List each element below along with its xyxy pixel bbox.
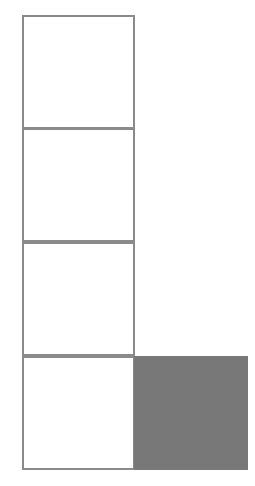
grid-cell-r4c2 [134,356,248,470]
grid-cell-r3c1 [22,242,135,356]
grid-cell-r1c1 [22,15,135,129]
polyomino-figure [0,0,255,486]
figure-canvas [0,0,255,486]
grid-cell-r2c1 [22,128,135,242]
grid-cell-r4c1 [22,356,135,470]
